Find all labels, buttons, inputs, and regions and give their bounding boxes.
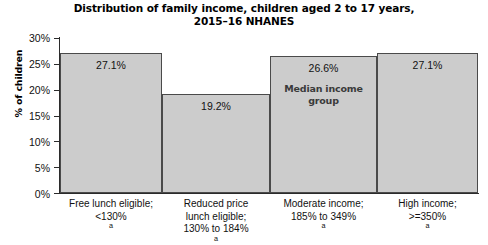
x-axis-line	[59, 193, 479, 194]
x-label-line-3: 130% to 184%a	[162, 223, 270, 245]
bar-value-label: 27.1%	[378, 59, 477, 71]
bar-value-label: 27.1%	[61, 59, 161, 71]
x-label-moderate-income: Moderate income; 185% to 349%a	[270, 198, 377, 236]
plot-area: 27.1% 19.2% 26.6% Median income group 27…	[60, 38, 478, 193]
footnote-marker: a	[322, 221, 326, 230]
bar-free-lunch[interactable]: 27.1%	[60, 53, 162, 193]
footnote-marker: a	[426, 221, 430, 230]
bar-moderate-income[interactable]: 26.6% Median income group	[270, 56, 377, 193]
x-label-line-2: <130%a	[56, 211, 166, 236]
x-label-line-1: Reduced price	[162, 198, 270, 211]
bar-series: 27.1% 19.2% 26.6% Median income group 27…	[60, 38, 478, 193]
y-tick-label-5: 5%	[0, 162, 50, 174]
y-tick-label-10: 10%	[0, 136, 50, 148]
bar-chart: Distribution of family income, children …	[0, 0, 488, 245]
y-tick-label-25: 25%	[0, 58, 50, 70]
footnote-marker: a	[214, 233, 218, 242]
bar-value-label: 19.2%	[163, 100, 269, 112]
x-label-line-2: 185% to 349%a	[270, 211, 377, 236]
x-label-line-2: >=350%a	[377, 211, 478, 236]
x-label-reduced-price-lunch: Reduced price lunch eligible; 130% to 18…	[162, 198, 270, 245]
footnote-marker: a	[109, 221, 113, 230]
annotation-line-2: group	[271, 95, 376, 107]
y-tick-label-20: 20%	[0, 84, 50, 96]
x-label-line-1: Free lunch eligible;	[56, 198, 166, 211]
y-tick-label-30: 30%	[0, 32, 50, 44]
bar-high-income[interactable]: 27.1%	[377, 53, 478, 193]
bar-value-label: 26.6%	[271, 62, 376, 74]
median-income-group-annotation: Median income group	[271, 83, 376, 106]
x-label-free-lunch: Free lunch eligible; <130%a	[56, 198, 166, 236]
y-tick-label-15: 15%	[0, 110, 50, 122]
y-tick-label-0: 0%	[0, 188, 50, 200]
x-label-high-income: High income; >=350%a	[377, 198, 478, 236]
x-label-line-1: Moderate income;	[270, 198, 377, 211]
chart-title-line-1: Distribution of family income, children …	[0, 2, 488, 15]
x-label-line-2: lunch eligible;	[162, 211, 270, 224]
x-axis-labels: Free lunch eligible; <130%a Reduced pric…	[60, 198, 478, 244]
x-label-line-1: High income;	[377, 198, 478, 211]
bar-reduced-price-lunch[interactable]: 19.2%	[162, 94, 270, 193]
chart-title: Distribution of family income, children …	[0, 2, 488, 28]
annotation-line-1: Median income	[271, 83, 376, 95]
chart-title-line-2: 2015–16 NHANES	[0, 15, 488, 28]
